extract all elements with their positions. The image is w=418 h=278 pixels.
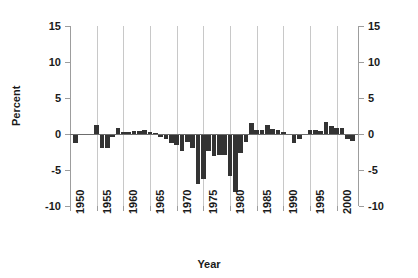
x-tick-label-1975: 1975 — [208, 190, 219, 214]
y-tick-label-right-0: 0 — [368, 129, 408, 140]
bar-1980 — [228, 134, 232, 176]
bar-1977 — [212, 134, 216, 156]
bar-1955 — [94, 125, 98, 134]
y-tick-label-right-15: 15 — [368, 21, 408, 32]
bar-1983 — [244, 134, 248, 142]
bar-2003 — [350, 134, 354, 141]
y-tick-right-10 — [359, 62, 364, 63]
x-tick-label-1980: 1980 — [235, 190, 246, 214]
x-tick-label-1960: 1960 — [128, 190, 139, 214]
bar-1987 — [265, 125, 269, 134]
y-tick-label-left--5: -5 — [21, 165, 61, 176]
bar-1992 — [292, 134, 296, 143]
y-tick-left-15 — [65, 26, 70, 27]
y-tick-label-left-5: 5 — [21, 93, 61, 104]
y-tick-left-5 — [65, 98, 70, 99]
bar-1956 — [100, 134, 104, 148]
x-tick-1985 — [257, 206, 258, 211]
x-tick-1965 — [150, 206, 151, 211]
bar-1981 — [233, 134, 237, 192]
bar-chart: 151510105500-5-5-10-10 19501955196019651… — [0, 0, 418, 278]
x-tick-1955 — [97, 206, 98, 211]
y-tick-left--5 — [65, 170, 70, 171]
y-tick-label-right-10: 10 — [368, 57, 408, 68]
x-tick-label-1950: 1950 — [75, 190, 86, 214]
y-tick-left-10 — [65, 62, 70, 63]
x-tick-label-1990: 1990 — [288, 190, 299, 214]
bar-1975 — [201, 134, 205, 179]
y-tick-right-5 — [359, 98, 364, 99]
x-tick-1975 — [203, 206, 204, 211]
y-axis-right-line — [358, 26, 359, 206]
y-tick-label-right--10: -10 — [368, 201, 408, 212]
x-tick-1950 — [70, 206, 71, 211]
bar-1957 — [105, 134, 109, 148]
x-tick-label-2000: 2000 — [342, 190, 353, 214]
y-tick-label-right-5: 5 — [368, 93, 408, 104]
x-tick-label-1965: 1965 — [155, 190, 166, 214]
x-axis-title: Year — [0, 258, 418, 270]
x-tick-1960 — [123, 206, 124, 211]
bar-1971 — [180, 134, 184, 151]
bar-1972 — [185, 134, 189, 142]
x-tick-1970 — [177, 206, 178, 211]
bar-1984 — [249, 123, 253, 134]
y-tick-label-left-10: 10 — [21, 57, 61, 68]
y-tick-right-15 — [359, 26, 364, 27]
bar-1970 — [174, 134, 178, 145]
x-tick-1995 — [310, 206, 311, 211]
x-tick-2000 — [337, 206, 338, 211]
bar-1969 — [169, 134, 173, 143]
bar-1976 — [206, 134, 210, 151]
bar-1974 — [196, 134, 200, 184]
y-tick-left-0 — [65, 134, 70, 135]
y-axis-title: Percent — [10, 86, 22, 126]
y-tick-label-left--10: -10 — [21, 201, 61, 212]
y-tick-label-left-15: 15 — [21, 21, 61, 32]
y-tick-right--10 — [359, 206, 364, 207]
bars-layer — [70, 26, 358, 206]
bar-2000 — [334, 128, 338, 134]
bar-1973 — [190, 134, 194, 148]
bar-1999 — [329, 126, 333, 134]
y-tick-right--5 — [359, 170, 364, 171]
y-tick-label-right--5: -5 — [368, 165, 408, 176]
x-tick-label-1985: 1985 — [262, 190, 273, 214]
y-tick-label-left-0: 0 — [21, 129, 61, 140]
x-tick-label-1995: 1995 — [315, 190, 326, 214]
x-tick-label-1955: 1955 — [102, 190, 113, 214]
bar-1982 — [238, 134, 242, 153]
bar-1978 — [217, 134, 221, 155]
x-tick-label-1970: 1970 — [182, 190, 193, 214]
y-tick-right-0 — [359, 134, 364, 135]
bar-1951 — [73, 134, 77, 143]
bar-1979 — [222, 134, 226, 155]
zero-baseline — [70, 134, 358, 135]
bar-1998 — [324, 122, 328, 134]
x-tick-1980 — [230, 206, 231, 211]
x-tick-1990 — [283, 206, 284, 211]
